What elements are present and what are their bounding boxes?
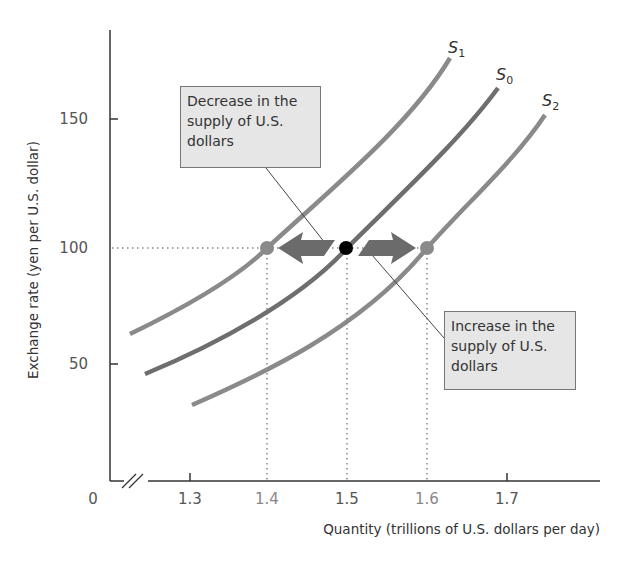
x-tick-label-1-4: 1.4: [255, 490, 279, 508]
arrow-right-icon: [358, 232, 416, 264]
y-tick-label-100: 100: [59, 239, 88, 257]
x-tick-label-1-7: 1.7: [495, 490, 519, 508]
guide-lines: [112, 248, 427, 480]
point-equilibrium: [339, 241, 353, 255]
label-s0: S0: [496, 65, 513, 87]
supply-shift-chart: 150 100 50 0 1.3 1.4 1.5 1.6 1.7 Exchang…: [0, 0, 627, 563]
axis-break-icon: [122, 474, 148, 488]
y-tick-label-150: 150: [59, 110, 88, 128]
y-axis-title: Exchange rate (yen per U.S. dollar): [25, 141, 41, 379]
label-s2: S2: [542, 91, 559, 113]
arrow-left-icon: [278, 232, 335, 264]
x-tick-label-1-5: 1.5: [335, 490, 359, 508]
callout-decrease-supply: Decrease in the supply of U.S. dollars: [180, 86, 321, 168]
x-axis-title: Quantity (trillions of U.S. dollars per …: [323, 521, 600, 537]
point-s1-100: [260, 241, 274, 255]
x-tick-label-0: 0: [88, 490, 98, 508]
label-s1: S1: [448, 38, 465, 60]
x-tick-label-1-6: 1.6: [415, 490, 439, 508]
y-tick-label-50: 50: [69, 355, 88, 373]
point-s2-100: [420, 241, 434, 255]
callout-increase-supply: Increase in the supply of U.S. dollars: [444, 311, 576, 390]
x-tick-label-1-3: 1.3: [178, 490, 202, 508]
